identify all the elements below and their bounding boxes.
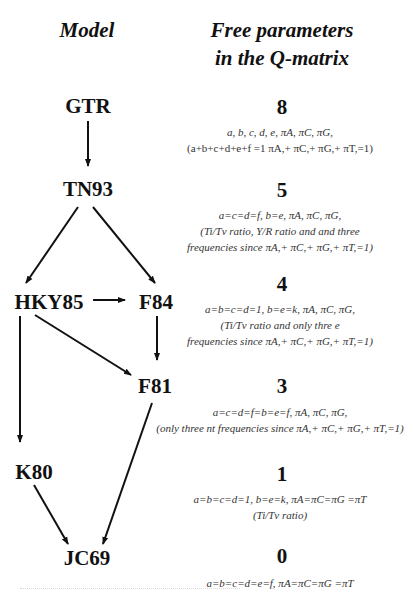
faint-artifact-line — [20, 588, 240, 592]
node-jc69: JC69 — [64, 546, 111, 570]
param-count-tn93: 5 — [277, 178, 288, 202]
node-f81: F81 — [138, 374, 172, 398]
param-desc-gtr: a, b, c, d, e, πA, πC, πG, (a+b+c+d+e+f … — [130, 124, 420, 156]
param-desc-line: a=b=c=d=1, b=e=k, πA, πC, πG, — [130, 301, 420, 317]
param-desc-line: (only three nt frequencies since πA,+ πC… — [130, 420, 420, 436]
param-desc-line: (Ti/Tv ratio and only thre e — [130, 317, 420, 333]
param-desc-line: a, b, c, d, e, πA, πC, πG, — [130, 124, 420, 140]
param-desc-tn93: a=c=d=f, b=e, πA, πC, πG, (Ti/Tv ratio, … — [130, 207, 420, 255]
node-gtr: GTR — [65, 94, 111, 118]
edge-k80-jc69 — [34, 485, 68, 544]
node-k80: K80 — [15, 460, 52, 484]
param-desc-line: (Ti/Tv ratio, Y/R ratio and and three — [130, 223, 420, 239]
param-desc-line: a=b=c=d=1, b=e=k, πA=πC=πG =πT — [130, 491, 420, 507]
param-count-k80: 1 — [277, 462, 288, 486]
node-tn93: TN93 — [63, 177, 113, 201]
param-count-f81: 3 — [277, 374, 288, 398]
param-desc-line: a=c=d=f, b=e, πA, πC, πG, — [130, 207, 420, 223]
param-desc-k80: a=b=c=d=1, b=e=k, πA=πC=πG =πT (Ti/Tv ra… — [130, 491, 420, 523]
param-desc-line: frequencies since πA,+ πC,+ πG,+ πT,=1) — [130, 333, 420, 349]
edge-tn93-hky85 — [26, 207, 78, 283]
param-count-f84: 4 — [277, 272, 288, 296]
param-count-gtr: 8 — [277, 95, 288, 119]
param-count-jc69: 0 — [277, 544, 288, 568]
param-desc-line: (a+b+c+d+e+f =1 πA,+ πC,+ πG,+ πT,=1) — [130, 140, 420, 156]
param-desc-line: frequencies since πA,+ πC,+ πG,+ πT,=1) — [130, 239, 420, 255]
param-desc-f81: a=c=d=f=b=e=f, πA, πC, πG, (only three n… — [130, 404, 420, 436]
node-hky85: HKY85 — [15, 290, 84, 314]
param-desc-f84: a=b=c=d=1, b=e=k, πA, πC, πG, (Ti/Tv rat… — [130, 301, 420, 349]
param-desc-line: a=c=d=f=b=e=f, πA, πC, πG, — [130, 404, 420, 420]
edge-hky85-f81 — [35, 315, 131, 375]
param-desc-line: (Ti/Tv ratio) — [130, 507, 420, 523]
